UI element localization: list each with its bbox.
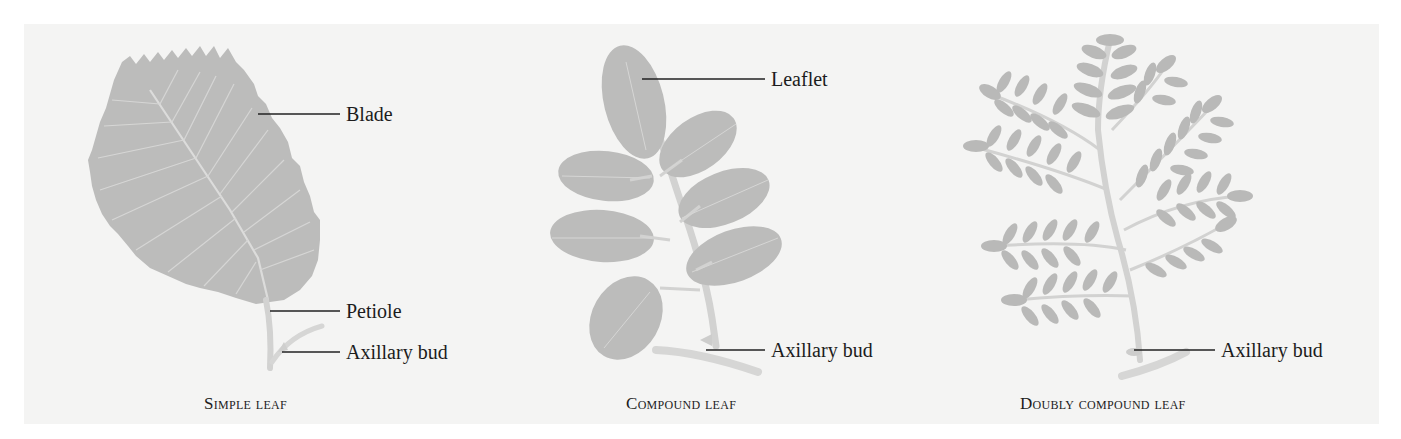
label-leaflet: Leaflet — [771, 68, 828, 90]
compound-leaf-illustration — [548, 38, 790, 373]
label-blade: Blade — [346, 103, 393, 125]
label-axillary-bud-doubly: Axillary bud — [1221, 339, 1323, 361]
caption-simple-leaf: Simple leaf — [204, 394, 287, 414]
label-petiole: Petiole — [346, 300, 402, 322]
doubly-compound-leaf-illustration — [963, 34, 1253, 376]
label-axillary-bud-compound: Axillary bud — [771, 339, 873, 361]
caption-compound-leaf: Compound leaf — [626, 394, 736, 414]
simple-leaf-illustration — [88, 46, 322, 368]
pinnules — [963, 34, 1253, 328]
label-axillary-bud-simple: Axillary bud — [346, 341, 448, 363]
leaf-diagram — [0, 0, 1401, 439]
caption-doubly-compound-leaf: Doubly compound leaf — [1020, 394, 1186, 414]
